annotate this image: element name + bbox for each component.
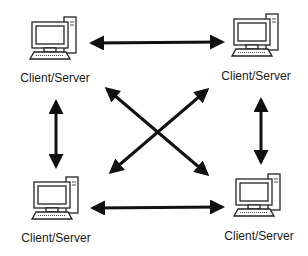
node-label-bottom-right: Client/Server	[224, 229, 293, 243]
node-label-bottom-left: Client/Server	[21, 231, 90, 245]
arrow-top-left-to-top-right	[92, 42, 222, 43]
network-diagram: Client/Server Client/Server Client/Serve…	[0, 0, 308, 256]
node-label-top-right: Client/Server	[221, 69, 290, 83]
arrow-top-right-to-bottom-left	[111, 90, 207, 172]
desktop-computer-icon	[230, 11, 284, 59]
desktop-computer-icon	[232, 171, 286, 219]
desktop-computer-icon	[30, 174, 84, 222]
arrow-bottom-left-to-bottom-right	[93, 207, 222, 208]
desktop-computer-icon	[28, 14, 82, 62]
node-label-top-left: Client/Server	[20, 71, 89, 85]
